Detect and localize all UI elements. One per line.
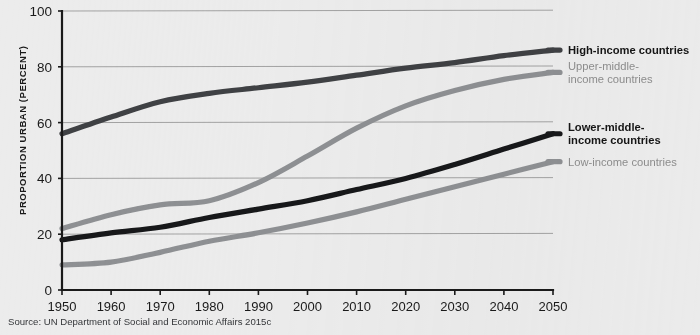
y-tick-label-40: 40 [37, 171, 52, 186]
gridline-20 [62, 233, 553, 234]
source-caption: Source: UN Department of Social and Econ… [8, 316, 271, 327]
y-tick-label-60: 60 [37, 116, 52, 131]
legend-label-1-line-1: income countries [568, 73, 653, 85]
legend-label-1-line-0: Upper-middle- [568, 60, 639, 72]
x-tick-label-1970: 1970 [146, 299, 175, 314]
x-tick-label-1980: 1980 [195, 299, 224, 314]
urbanization-line-chart: 020406080100 195019601970198019902000201… [0, 0, 700, 335]
x-tick-label-2010: 2010 [342, 299, 371, 314]
x-tick-label-2000: 2000 [293, 299, 322, 314]
legend-label-2-line-0: Lower-middle- [568, 121, 645, 133]
y-tick-label-100: 100 [29, 4, 52, 19]
x-tick-label-1990: 1990 [244, 299, 273, 314]
legend-label-2-line-1: income countries [568, 134, 661, 146]
y-tick-label-80: 80 [37, 60, 52, 75]
legend: High-income countriesUpper-middle-income… [548, 44, 689, 168]
x-tick-label-2050: 2050 [539, 299, 568, 314]
series-lines [62, 50, 553, 265]
y-axis-title: PROPORTION URBAN (PERCENT) [17, 46, 28, 215]
axes [62, 11, 553, 290]
x-axis-tick-labels: 1950196019701980199020002010202020302040… [48, 290, 568, 314]
gridline-100 [62, 10, 553, 11]
legend-label-0-line-0: High-income countries [568, 44, 689, 56]
series-line-0 [62, 50, 553, 134]
y-tick-label-20: 20 [37, 227, 52, 242]
legend-label-3-line-0: Low-income countries [568, 156, 677, 168]
x-tick-label-1960: 1960 [97, 299, 126, 314]
gridline-80 [62, 66, 553, 67]
gridline-60 [62, 122, 553, 123]
y-axis-tick-labels: 020406080100 [29, 4, 62, 298]
series-line-3 [62, 162, 553, 265]
chart-canvas: 020406080100 195019601970198019902000201… [0, 0, 700, 335]
x-tick-label-2040: 2040 [489, 299, 518, 314]
series-line-1 [62, 72, 553, 228]
y-tick-label-0: 0 [44, 283, 52, 298]
x-tick-label-2030: 2030 [440, 299, 469, 314]
x-tick-label-1950: 1950 [48, 299, 77, 314]
x-tick-label-2020: 2020 [391, 299, 420, 314]
